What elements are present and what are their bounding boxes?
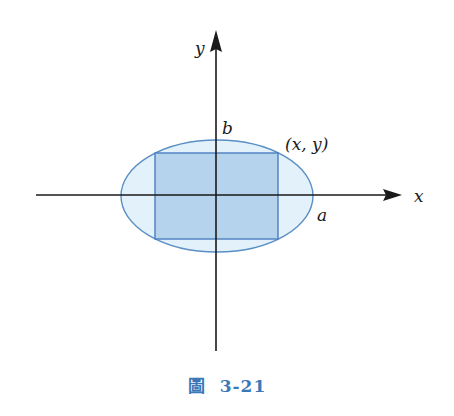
caption-number: 3-21 (220, 376, 267, 396)
y-axis-label: y (195, 40, 205, 57)
figure-caption: 圖3-21 (0, 372, 454, 397)
x-axis-label: x (414, 188, 424, 205)
semi-minor-axis-label: b (222, 120, 233, 137)
caption-prefix: 圖 (188, 372, 206, 397)
ellipse-diagram (0, 0, 454, 416)
semi-major-axis-label: a (317, 207, 327, 224)
corner-point-label: (x, y) (285, 136, 328, 153)
y-axis-arrow-icon (210, 30, 222, 52)
